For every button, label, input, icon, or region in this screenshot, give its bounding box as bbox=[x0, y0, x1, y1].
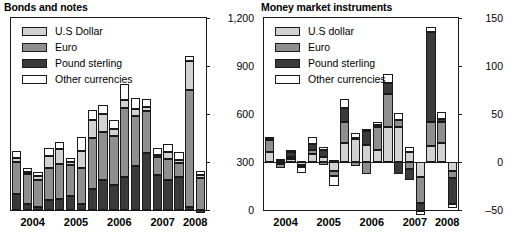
bar-segment-usd bbox=[153, 155, 162, 157]
legend-swatch-usd bbox=[22, 27, 47, 36]
legend-label-gbp: Pound sterling bbox=[55, 58, 122, 69]
y-tick-mark bbox=[458, 162, 462, 163]
bar-segment-usd bbox=[66, 162, 75, 165]
bar-segment-usd bbox=[448, 162, 457, 171]
legend-label-eur: Euro bbox=[308, 42, 330, 53]
bar-segment-other bbox=[416, 211, 425, 215]
bar-segment-other bbox=[329, 176, 338, 186]
x-tick-label-2007: 2007 bbox=[150, 217, 174, 228]
bar-segment-other bbox=[174, 152, 183, 159]
bar-segment-other bbox=[196, 171, 205, 175]
bar-segment-gbp bbox=[405, 169, 414, 181]
legend-swatch-usd bbox=[275, 27, 300, 36]
bar-segment-eur bbox=[23, 174, 32, 204]
y-tick-mark bbox=[206, 66, 210, 67]
legend-label-usd: U.S Dollar bbox=[55, 26, 103, 37]
y-tick-mark bbox=[206, 162, 210, 163]
bar-2007Q4 bbox=[426, 18, 435, 210]
legend-label-other: Other currencies bbox=[308, 74, 386, 85]
legend-left: U.S Dollar Euro Pound sterling Other cur… bbox=[22, 24, 133, 88]
x-tick-label-2005: 2005 bbox=[64, 217, 88, 228]
bar-segment-usd bbox=[308, 154, 317, 162]
legend-swatch-gbp bbox=[275, 59, 300, 68]
legend-swatch-eur bbox=[22, 43, 47, 52]
bar-segment-eur bbox=[88, 138, 97, 189]
y-tick-label: 50 bbox=[463, 109, 503, 120]
bar-segment-gbp bbox=[394, 162, 403, 174]
bar-segment-eur bbox=[185, 90, 194, 207]
bar-segment-eur bbox=[196, 178, 205, 210]
bar-segment-eur bbox=[426, 122, 435, 146]
bar-segment-eur bbox=[319, 162, 328, 165]
bar-segment-other bbox=[109, 120, 118, 130]
bar-segment-other bbox=[88, 110, 97, 120]
bar-segment-gbp bbox=[55, 199, 64, 210]
bar-segment-usd bbox=[383, 127, 392, 162]
bar-segment-other bbox=[153, 148, 162, 154]
bar-segment-gbp bbox=[77, 204, 86, 210]
legend-label-usd: U.S dollar bbox=[308, 26, 354, 37]
bar-segment-usd bbox=[351, 139, 360, 162]
bar-segment-eur bbox=[174, 163, 183, 177]
legend-swatch-eur bbox=[275, 43, 300, 52]
bar-segment-gbp bbox=[109, 185, 118, 210]
bar-2007Q1 bbox=[142, 18, 151, 210]
bar-segment-gbp bbox=[163, 180, 172, 210]
bar-2007Q3 bbox=[416, 18, 425, 210]
bar-segment-gbp bbox=[120, 177, 129, 210]
x-tick-label-2005: 2005 bbox=[316, 217, 340, 228]
bar-segment-gbp bbox=[174, 177, 183, 210]
bar-2007Q2 bbox=[405, 18, 414, 210]
y-tick-mark bbox=[206, 114, 210, 115]
bar-2004Q1 bbox=[12, 18, 21, 210]
panel-title-left: Bonds and notes bbox=[4, 1, 88, 13]
y-tick-label: 600 bbox=[212, 109, 254, 120]
bar-segment-eur bbox=[120, 108, 129, 177]
bar-segment-usd bbox=[23, 172, 32, 174]
bar-segment-gbp bbox=[340, 108, 349, 121]
bar-segment-usd bbox=[394, 127, 403, 162]
bar-segment-other bbox=[44, 148, 53, 155]
y-tick-label: 150 bbox=[463, 13, 503, 24]
bar-segment-other bbox=[142, 99, 151, 107]
x-tick-label-2004: 2004 bbox=[273, 217, 297, 228]
bar-segment-usd bbox=[109, 129, 118, 136]
y-tick-label: 300 bbox=[212, 157, 254, 168]
bar-segment-gbp bbox=[131, 166, 140, 210]
bar-2008Q1 bbox=[437, 18, 446, 210]
bar-segment-other bbox=[66, 158, 75, 162]
y-tick-label: 100 bbox=[463, 61, 503, 72]
legend-item-usd: U.S dollar bbox=[275, 24, 386, 39]
legend-swatch-other bbox=[22, 75, 47, 84]
y-tick-mark bbox=[458, 210, 462, 211]
bar-segment-usd bbox=[196, 175, 205, 178]
y-tick-mark bbox=[458, 114, 462, 115]
chart-panels: Bonds and notes U.S Dollar Euro Pound st… bbox=[0, 0, 514, 252]
legend-item-other: Other currencies bbox=[275, 72, 386, 87]
bar-segment-other bbox=[340, 99, 349, 109]
bar-segment-usd bbox=[286, 159, 295, 162]
bar-segment-other bbox=[373, 122, 382, 125]
legend-item-usd: U.S Dollar bbox=[22, 24, 133, 39]
bar-segment-gbp bbox=[153, 175, 162, 210]
bar-segment-eur bbox=[131, 116, 140, 166]
bar-segment-gbp bbox=[44, 200, 53, 210]
bar-segment-other bbox=[276, 159, 285, 161]
bar-segment-usd bbox=[131, 109, 140, 115]
x-tick-label-2006: 2006 bbox=[107, 217, 131, 228]
bar-segment-gbp bbox=[362, 131, 371, 144]
bar-segment-other bbox=[319, 147, 328, 151]
bar-segment-eur bbox=[33, 180, 42, 206]
bar-segment-other bbox=[33, 172, 42, 177]
bar-segment-eur bbox=[55, 164, 64, 198]
bar-segment-eur bbox=[383, 94, 392, 128]
bar-segment-gbp bbox=[426, 32, 435, 121]
bar-segment-gbp bbox=[416, 203, 425, 211]
bar-segment-eur bbox=[276, 164, 285, 168]
legend-label-gbp: Pound sterling bbox=[308, 58, 375, 69]
bar-2008Q2 bbox=[196, 18, 205, 210]
bar-segment-other bbox=[286, 150, 295, 152]
bar-segment-eur bbox=[286, 157, 295, 159]
y-tick-label: 0 bbox=[463, 157, 503, 168]
bar-segment-gbp bbox=[23, 204, 32, 210]
